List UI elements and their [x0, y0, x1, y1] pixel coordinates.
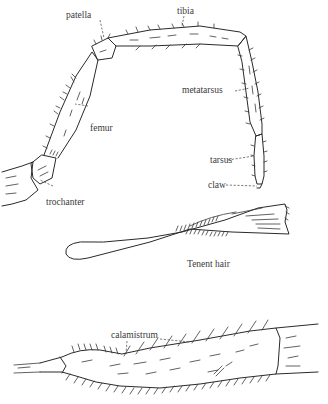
tibia-drawing [108, 22, 246, 50]
label-claw: claw [208, 181, 226, 191]
coxa-drawing [2, 162, 38, 206]
claw-drawing [257, 184, 262, 188]
label-femur: femur [90, 124, 113, 134]
metatarsus-drawing [238, 36, 264, 136]
tarsus-drawing [251, 134, 267, 188]
calamistrum-segment-drawing [14, 320, 318, 394]
label-tarsus: tarsus [210, 156, 232, 166]
label-metatarsus: metatarsus [182, 86, 223, 96]
label-patella: patella [66, 11, 91, 21]
label-tenent-hair: Tenent hair [187, 260, 230, 270]
femur-drawing [43, 52, 98, 158]
label-tibia: tibia [177, 7, 194, 17]
trochanter-drawing [31, 155, 56, 184]
label-calamistrum: calamistrum [111, 331, 158, 341]
tenent-hair-drawing [66, 204, 289, 259]
label-trochanter: trochanter [46, 198, 85, 208]
